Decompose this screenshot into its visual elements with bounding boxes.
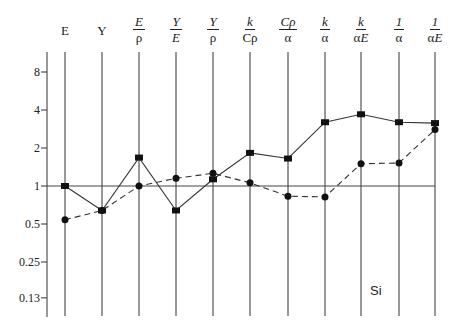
y-tick-label: 1: [0, 180, 40, 192]
square-marker: [284, 156, 292, 162]
circle-marker: [285, 193, 292, 200]
column-header: Eρ: [119, 14, 159, 45]
circle-marker: [62, 216, 69, 223]
circle-marker: [358, 160, 365, 167]
square-marker: [246, 150, 254, 156]
y-tick-label: 2: [0, 142, 40, 154]
column-header: 1αE: [415, 14, 455, 45]
square-marker: [321, 119, 329, 125]
y-tick-label: 0.5: [0, 218, 40, 230]
square-marker: [209, 176, 217, 182]
circle-marker: [99, 207, 106, 214]
circle-marker: [173, 175, 180, 182]
column-header: kαE: [341, 14, 381, 45]
circle-marker: [136, 183, 143, 190]
y-tick-label: 0.25: [0, 256, 40, 268]
column-header: Yρ: [193, 14, 233, 45]
y-tick-label: 8: [0, 66, 40, 78]
plot-area: [0, 0, 461, 332]
y-tick-label: 4: [0, 104, 40, 116]
y-tick-label: 0.13: [0, 292, 40, 304]
column-header: kα: [305, 14, 345, 45]
circle-marker: [432, 126, 439, 133]
square-marker: [395, 119, 403, 125]
circle-marker: [247, 179, 254, 186]
square-marker: [172, 207, 180, 213]
chart: EYEρYEYρkCρCραkαkαE1α1αE 84210.50.250.13…: [0, 0, 461, 332]
square-marker: [135, 155, 143, 161]
column-header: YE: [156, 14, 196, 45]
column-header: kCρ: [230, 14, 270, 45]
square-marker: [61, 183, 69, 189]
column-header: Cρα: [268, 14, 308, 45]
circle-marker: [322, 193, 329, 200]
column-header: 1α: [379, 14, 419, 45]
square-marker: [431, 120, 439, 126]
circle-marker: [210, 170, 217, 177]
column-header: Y: [82, 14, 122, 38]
circle-marker: [396, 160, 403, 167]
square-marker: [357, 111, 365, 117]
column-header: E: [45, 14, 85, 38]
material-label: Si: [370, 283, 382, 298]
